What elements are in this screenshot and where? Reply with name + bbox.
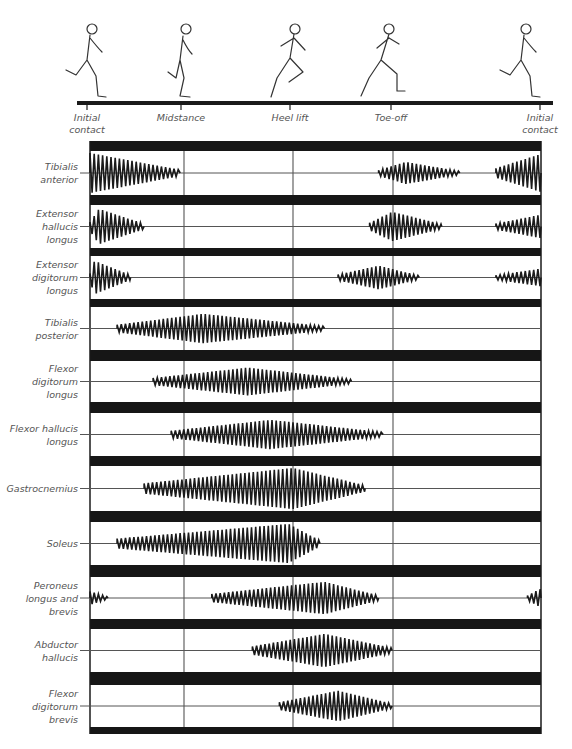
- phase-label: Toe-off: [351, 112, 431, 124]
- runner-heel-lift-icon: [271, 24, 305, 97]
- phase-label: Initial contact: [500, 112, 572, 136]
- muscle-label: Gastrocnemius: [4, 482, 78, 495]
- emg-burst: [370, 213, 442, 242]
- row-separator-bar: [90, 456, 541, 466]
- emg-burst: [379, 162, 460, 184]
- row-separator-bar: [90, 299, 541, 307]
- row-separator-bar: [90, 248, 541, 256]
- emg-burst: [338, 266, 419, 289]
- emg-burst: [90, 153, 180, 193]
- row-separator-bar: [90, 619, 541, 629]
- muscle-label: Flexor digitorum brevis: [4, 687, 78, 726]
- muscle-label: Peroneus longus and brevis: [4, 579, 78, 618]
- muscle-label: Flexor hallucis longus: [4, 422, 78, 448]
- muscle-label: Abductor hallucis: [4, 638, 78, 664]
- muscle-label: Soleus: [4, 537, 78, 550]
- row-separator-bar: [90, 672, 541, 685]
- phase-label: Heel lift: [250, 112, 330, 124]
- row-separator-bar: [90, 141, 541, 151]
- row-separator-bar: [90, 511, 541, 522]
- emg-burst: [496, 269, 541, 286]
- muscle-label: Tibialis posterior: [4, 316, 78, 342]
- row-separator-bar: [90, 402, 541, 413]
- runner-initial-contact-icon: [66, 24, 106, 97]
- muscle-label: Extensor hallucis longus: [4, 207, 78, 246]
- phase-label: Initial contact: [47, 112, 127, 136]
- emg-burst: [153, 368, 351, 396]
- runner-toe-off-icon: [361, 24, 405, 96]
- runner-initial-contact-2-icon: [500, 24, 540, 97]
- muscle-label: Flexor digitorum longus: [4, 362, 78, 401]
- emg-burst: [90, 591, 108, 604]
- muscle-label: Tibialis anterior: [4, 160, 78, 186]
- runner-midstance-icon: [168, 24, 192, 97]
- timeline-bar: [77, 101, 553, 105]
- row-separator-bar: [90, 195, 541, 205]
- emg-burst: [496, 215, 541, 238]
- emg-burst: [496, 155, 541, 192]
- muscle-label: Extensor digitorum longus: [4, 258, 78, 297]
- emg-burst: [171, 420, 383, 449]
- row-separator-bar: [90, 565, 541, 577]
- phase-label: Midstance: [141, 112, 221, 124]
- emg-burst: [144, 468, 365, 509]
- emg-burst: [527, 589, 541, 606]
- row-separator-bar: [90, 350, 541, 361]
- row-separator-bar: [90, 727, 541, 734]
